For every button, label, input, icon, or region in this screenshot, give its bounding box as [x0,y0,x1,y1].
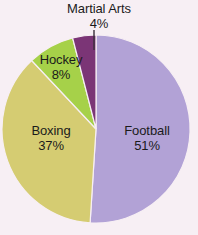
pie-label-boxing-name: Boxing [9,123,93,138]
pie-label-football-name: Football [106,123,188,138]
pie-label-hockey: Hockey 8% [22,52,100,82]
pie-label-football-percent: 51% [106,138,188,153]
pie-label-martial-arts-name: Martial Arts [0,1,198,16]
pie-label-boxing: Boxing 37% [9,123,93,153]
pie-label-martial-arts: Martial Arts 4% [0,1,198,31]
pie-chart: Martial Arts 4% Hockey 8% Boxing 37% Foo… [0,0,198,235]
pie-label-hockey-percent: 8% [22,67,100,82]
pie-label-football: Football 51% [106,123,188,153]
pie-chart-graphic [0,0,198,235]
pie-label-martial-arts-percent: 4% [0,16,198,31]
pie-label-hockey-name: Hockey [22,52,100,67]
pie-label-boxing-percent: 37% [9,138,93,153]
